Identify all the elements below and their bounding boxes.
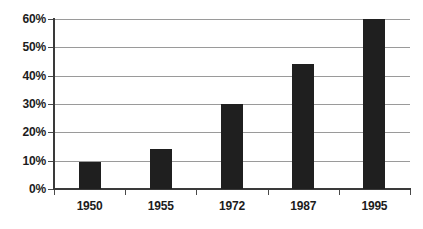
- bar: [292, 64, 314, 189]
- bar-slot: [196, 19, 267, 189]
- x-axis-tick-label: 1987: [268, 199, 339, 213]
- y-axis-tick-label: 10%: [23, 154, 46, 168]
- x-axis-tick-label: 1995: [339, 199, 410, 213]
- bar: [221, 104, 243, 189]
- bar-series: [54, 19, 410, 189]
- bar: [363, 19, 385, 189]
- x-axis-tick-label: 1955: [125, 199, 196, 213]
- x-axis-tick-label: 1972: [196, 199, 267, 213]
- x-axis-tick: [196, 190, 197, 195]
- x-axis-tick: [339, 190, 340, 195]
- y-axis-tick-label: 20%: [23, 125, 46, 139]
- x-axis-tick: [125, 190, 126, 195]
- x-axis-tick: [268, 190, 269, 195]
- x-axis-tick: [410, 190, 411, 195]
- bar: [79, 162, 101, 189]
- x-axis-tick: [54, 190, 55, 195]
- y-axis-tick-label: 30%: [23, 97, 46, 111]
- bar-slot: [54, 19, 125, 189]
- x-axis-labels: 19501955197219871995: [54, 199, 410, 213]
- bar-chart: 0%10%20%30%40%50%60% 1950195519721987199…: [0, 0, 423, 229]
- x-axis-tick-label: 1950: [54, 199, 125, 213]
- y-axis-tick-label: 50%: [23, 40, 46, 54]
- bar: [150, 149, 172, 189]
- y-axis-tick-label: 40%: [23, 69, 46, 83]
- bar-slot: [339, 19, 410, 189]
- y-axis-tick-label: 0%: [29, 182, 46, 196]
- y-axis-labels: 0%10%20%30%40%50%60%: [0, 19, 46, 189]
- y-axis-tick-label: 60%: [23, 12, 46, 26]
- bar-slot: [125, 19, 196, 189]
- bar-slot: [268, 19, 339, 189]
